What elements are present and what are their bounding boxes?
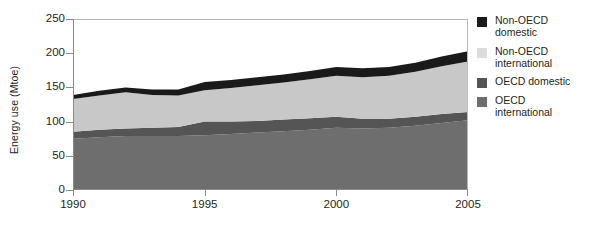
legend-label: OECD domestic xyxy=(495,75,595,87)
y-tick-label: 0 xyxy=(29,184,65,196)
legend-item[interactable]: OECD international xyxy=(477,94,595,119)
y-tick-label: 150 xyxy=(29,81,65,93)
y-tick-label: 50 xyxy=(29,150,65,162)
plot-area: 050100150200250 1990199520002005 xyxy=(73,19,468,190)
stacked-area-series xyxy=(73,19,468,190)
legend-label: OECD international xyxy=(495,94,595,119)
y-tick xyxy=(66,190,73,191)
energy-use-area-chart: Energy use (Mtoe) 050100150200250 199019… xyxy=(0,0,596,234)
x-tick-label: 2005 xyxy=(438,198,498,210)
y-tick xyxy=(66,122,73,123)
x-tick xyxy=(73,190,74,196)
y-tick xyxy=(66,53,73,54)
legend-swatch-oecd-international xyxy=(477,97,487,107)
plot-top-border xyxy=(73,19,468,20)
x-tick xyxy=(467,190,468,196)
legend-item[interactable]: OECD domestic xyxy=(477,75,595,88)
y-axis-line xyxy=(73,19,74,190)
legend-swatch-oecd-domestic xyxy=(477,78,487,88)
x-tick-label: 1990 xyxy=(43,198,103,210)
x-axis-line xyxy=(73,189,468,190)
legend-item[interactable]: Non-OECD international xyxy=(477,45,595,70)
legend-item[interactable]: Non-OECD domestic xyxy=(477,14,595,39)
x-tick-label: 2000 xyxy=(306,198,366,210)
legend-label: Non-OECD domestic xyxy=(495,14,595,39)
legend-label: Non-OECD international xyxy=(495,45,595,70)
y-tick xyxy=(66,156,73,157)
y-axis-title: Energy use (Mtoe) xyxy=(8,30,20,190)
x-tick xyxy=(205,190,206,196)
y-tick-label: 100 xyxy=(29,116,65,128)
plot-right-border xyxy=(467,19,468,190)
chart-legend: Non-OECD domesticNon-OECD internationalO… xyxy=(477,14,595,125)
y-tick xyxy=(66,19,73,20)
legend-swatch-non-oecd-international xyxy=(477,48,487,58)
x-tick-label: 1995 xyxy=(175,198,235,210)
x-tick xyxy=(336,190,337,196)
y-tick xyxy=(66,87,73,88)
y-tick-label: 250 xyxy=(29,13,65,25)
y-tick-label: 200 xyxy=(29,47,65,59)
legend-swatch-non-oecd-domestic xyxy=(477,17,487,27)
